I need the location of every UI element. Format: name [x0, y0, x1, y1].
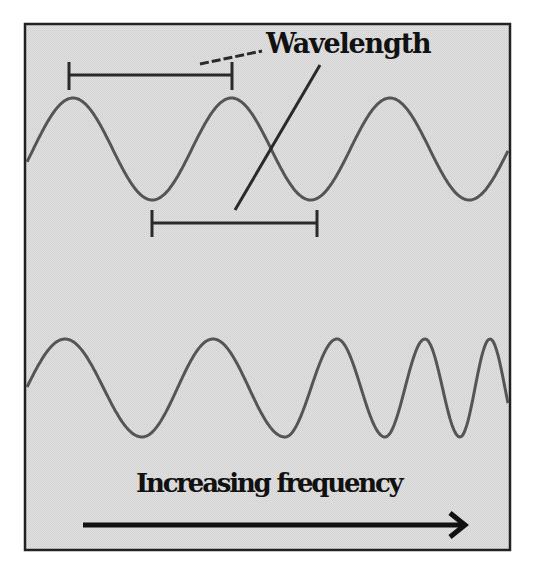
- wave-diagram: Wavelength Increasing frequency: [0, 0, 537, 570]
- increasing-frequency-label: Increasing frequency: [136, 470, 402, 496]
- wavelength-label: Wavelength: [266, 30, 430, 57]
